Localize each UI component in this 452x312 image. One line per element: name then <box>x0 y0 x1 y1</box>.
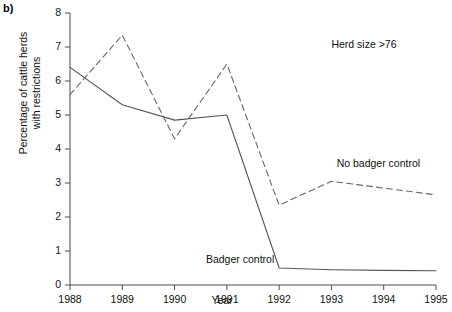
y-axis-label: Percentage of cattle herds with restrict… <box>17 0 43 193</box>
y-tick-label: 7 <box>37 41 61 51</box>
x-tick-label: 1992 <box>257 293 301 305</box>
y-tick-label: 8 <box>37 7 61 17</box>
y-tick-label: 2 <box>37 211 61 221</box>
x-tick-label: 1993 <box>309 293 353 305</box>
series-line-no-badger-control <box>70 35 436 205</box>
x-tick-label: 1991 <box>205 293 249 305</box>
y-tick-label: 1 <box>37 245 61 255</box>
y-tick-label: 4 <box>37 143 61 153</box>
annotation-badger-control: Badger control <box>206 253 274 265</box>
panel-label: b) <box>3 2 13 14</box>
y-tick-label: 0 <box>37 279 61 289</box>
y-tick-label: 6 <box>37 75 61 85</box>
x-tick-label: 1990 <box>153 293 197 305</box>
x-tick-label: 1995 <box>414 293 452 305</box>
x-tick-label: 1989 <box>100 293 144 305</box>
axes <box>65 13 436 290</box>
y-tick-label: 3 <box>37 177 61 187</box>
annotation-no-badger-control: No badger control <box>337 157 420 169</box>
x-tick-label: 1988 <box>48 293 92 305</box>
annotation-herd-size-76: Herd size >76 <box>331 38 396 50</box>
data-series <box>70 35 436 271</box>
x-tick-label: 1994 <box>362 293 406 305</box>
y-tick-label: 5 <box>37 109 61 119</box>
